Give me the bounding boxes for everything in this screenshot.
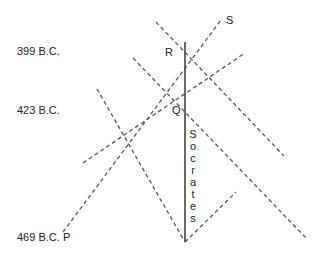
worldline-letter: e [188, 200, 198, 212]
date-label-469: 469 B.C. [17, 231, 60, 243]
lightline-through-r-down [156, 22, 284, 156]
worldline-letter: o [188, 140, 198, 152]
point-label-q: Q [172, 104, 181, 116]
worldline-letter: a [188, 176, 198, 188]
point-label-s: S [226, 14, 233, 26]
worldline-label-socrates: S o c r a t e s [188, 128, 198, 224]
worldline-letter: t [188, 188, 198, 200]
worldline-letter: s [188, 212, 198, 224]
point-label-r: R [165, 46, 173, 58]
worldline-letter: S [188, 128, 198, 140]
worldline-letter: r [188, 164, 198, 176]
point-label-p: P [63, 231, 70, 243]
lightline-through-q-down [133, 58, 306, 238]
date-label-423: 423 B.C. [17, 104, 60, 116]
light-cone-diagram [0, 0, 330, 256]
date-label-399: 399 B.C. [17, 45, 60, 57]
worldline-letter: c [188, 152, 198, 164]
